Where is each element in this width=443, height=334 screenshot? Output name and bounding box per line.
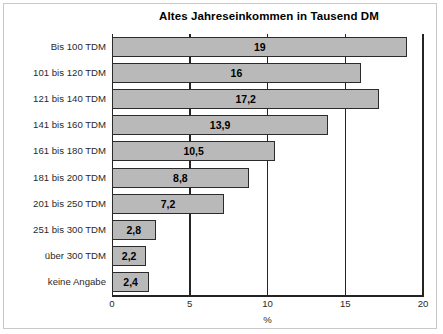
category-label: 141 bis 160 TDM xyxy=(4,112,106,138)
x-tick-label-5: 5 xyxy=(175,298,205,309)
category-label: 181 bis 200 TDM xyxy=(4,165,106,191)
bar-value-label: 10,5 xyxy=(112,141,275,161)
bar-value-label: 17,2 xyxy=(112,89,379,109)
category-label: 251 bis 300 TDM xyxy=(4,217,106,243)
bar-row: 2,4 xyxy=(112,269,423,295)
category-label: Bis 100 TDM xyxy=(4,34,106,60)
bar-value-label: 19 xyxy=(112,37,407,57)
bar-row: 19 xyxy=(112,34,423,60)
bar-row: 2,2 xyxy=(112,243,423,269)
bar-row: 13,9 xyxy=(112,112,423,138)
x-tick-label-0: 0 xyxy=(97,298,127,309)
bar-row: 10,5 xyxy=(112,138,423,164)
bar-row: 2,8 xyxy=(112,217,423,243)
x-axis-title: % xyxy=(112,314,423,325)
bar-value-label: 8,8 xyxy=(112,168,249,188)
category-label: über 300 TDM xyxy=(4,243,106,269)
plot-area: 191617,213,910,58,87,22,82,22,4 xyxy=(112,34,423,295)
bar-value-label: 7,2 xyxy=(112,194,224,214)
category-label: 161 bis 180 TDM xyxy=(4,138,106,164)
bar-row: 8,8 xyxy=(112,165,423,191)
category-label: keine Angabe xyxy=(4,269,106,295)
x-tick-label-15: 15 xyxy=(330,298,360,309)
chart-figure: Altes Jahreseinkommen in Tausend DM 1916… xyxy=(3,3,437,329)
x-tick-label-20: 20 xyxy=(408,298,438,309)
bar-row: 17,2 xyxy=(112,86,423,112)
bar-value-label: 2,8 xyxy=(112,220,156,240)
bar-value-label: 13,9 xyxy=(112,115,328,135)
bar-row: 16 xyxy=(112,60,423,86)
category-label: 201 bis 250 TDM xyxy=(4,191,106,217)
bar-value-label: 16 xyxy=(112,63,361,83)
category-label: 121 bis 140 TDM xyxy=(4,86,106,112)
chart-title: Altes Jahreseinkommen in Tausend DM xyxy=(109,10,429,22)
category-label: 101 bis 120 TDM xyxy=(4,60,106,86)
x-axis-line xyxy=(112,295,424,297)
bar-value-label: 2,4 xyxy=(112,272,149,292)
bar-row: 7,2 xyxy=(112,191,423,217)
x-tick-label-10: 10 xyxy=(253,298,283,309)
bar-value-label: 2,2 xyxy=(112,246,146,266)
